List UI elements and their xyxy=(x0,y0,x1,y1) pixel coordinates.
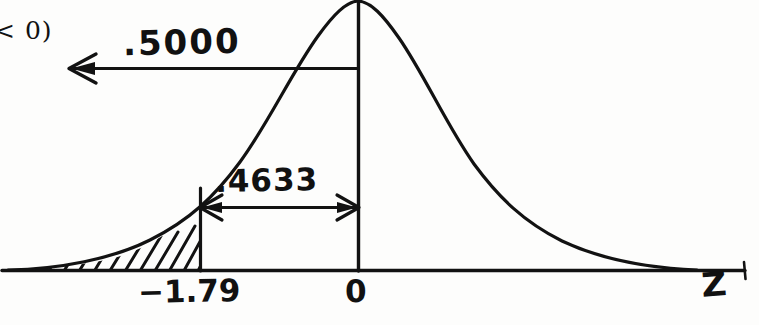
normal-density-curve xyxy=(8,1,697,270)
area-label-left-half: .5000 xyxy=(123,21,241,63)
sketch-canvas xyxy=(0,0,759,325)
normal-curve-figure: < 0) .5000 .4633 −1.79 0 Z xyxy=(0,0,759,325)
x-tick-label-neg-1-79: −1.79 xyxy=(138,272,241,310)
expression-fragment-label: < 0) xyxy=(0,16,53,45)
axis-label-z: Z xyxy=(700,264,728,305)
area-label-between: .4633 xyxy=(215,161,319,199)
x-tick-label-zero: 0 xyxy=(345,273,368,309)
